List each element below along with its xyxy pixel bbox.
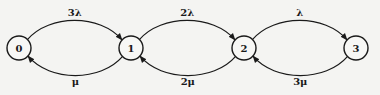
state-label: 2 — [241, 43, 248, 54]
edge-1-to-2 — [139, 20, 235, 39]
state-node-0: 0 — [7, 36, 31, 60]
edge-label-3-to-2: 3μ — [293, 76, 307, 87]
state-node-2: 2 — [232, 36, 256, 60]
edge-label-1-to-2: 2λ — [180, 7, 194, 18]
state-node-3: 3 — [344, 36, 368, 60]
edge-0-to-1 — [27, 20, 122, 39]
edge-label-1-to-0: μ — [72, 76, 79, 87]
state-label: 3 — [353, 43, 360, 54]
state-node-1: 1 — [119, 36, 143, 60]
edge-label-2-to-3: λ — [296, 7, 303, 18]
edge-1-to-0 — [28, 56, 123, 75]
edge-2-to-1 — [140, 56, 236, 75]
state-label: 0 — [16, 43, 23, 54]
edge-2-to-3 — [252, 20, 347, 39]
edge-label-0-to-1: 3λ — [68, 7, 82, 18]
edge-3-to-2 — [253, 56, 348, 75]
state-diagram: 3λ2λλμ2μ3μ 0123 — [0, 0, 380, 95]
state-label: 1 — [128, 43, 135, 54]
edge-label-2-to-1: 2μ — [181, 76, 195, 87]
